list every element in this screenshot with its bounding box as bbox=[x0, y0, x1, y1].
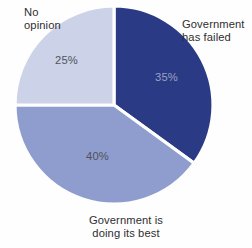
pie-chart: No opinion Government has failed Governm… bbox=[0, 0, 252, 248]
slice-value-no-opinion: 25% bbox=[55, 54, 78, 66]
slice-label-government-is-doing-its-best-line-2: doing its best bbox=[62, 227, 190, 240]
slice-value-government-is-doing-its-best: 40% bbox=[86, 150, 109, 162]
slice-value-government-has-failed: 35% bbox=[155, 71, 178, 83]
slice-label-no-opinion: No opinion bbox=[24, 6, 61, 33]
slice-label-government-is-doing-its-best-line-1: Government is bbox=[62, 214, 190, 227]
slice-label-no-opinion-line-2: opinion bbox=[24, 19, 61, 32]
slice-label-no-opinion-line-1: No bbox=[24, 6, 61, 19]
slice-label-government-is-doing-its-best: Government is doing its best bbox=[62, 214, 190, 241]
slice-label-government-has-failed: Government has failed bbox=[182, 18, 245, 45]
slice-label-government-has-failed-line-1: Government bbox=[182, 18, 245, 31]
slice-label-government-has-failed-line-2: has failed bbox=[182, 31, 245, 44]
